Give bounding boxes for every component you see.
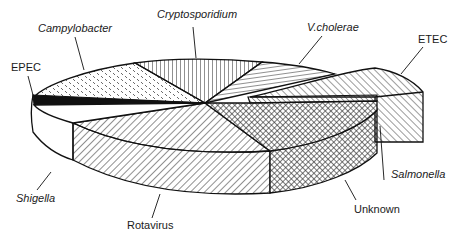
label-salmonella: Salmonella	[391, 168, 445, 180]
label-rotavirus: Rotavirus	[127, 219, 173, 231]
slice-salmonella	[248, 95, 377, 103]
label-campylobacter: Campylobacter	[38, 22, 112, 34]
label-epec: EPEC	[11, 61, 41, 73]
label-unknown: Unknown	[354, 203, 400, 215]
label-shigella: Shigella	[16, 192, 55, 204]
label-cryptosporidium: Cryptosporidium	[157, 8, 237, 20]
label-etec: ETEC	[418, 33, 447, 45]
label-vcholerae: V.cholerae	[307, 21, 359, 33]
